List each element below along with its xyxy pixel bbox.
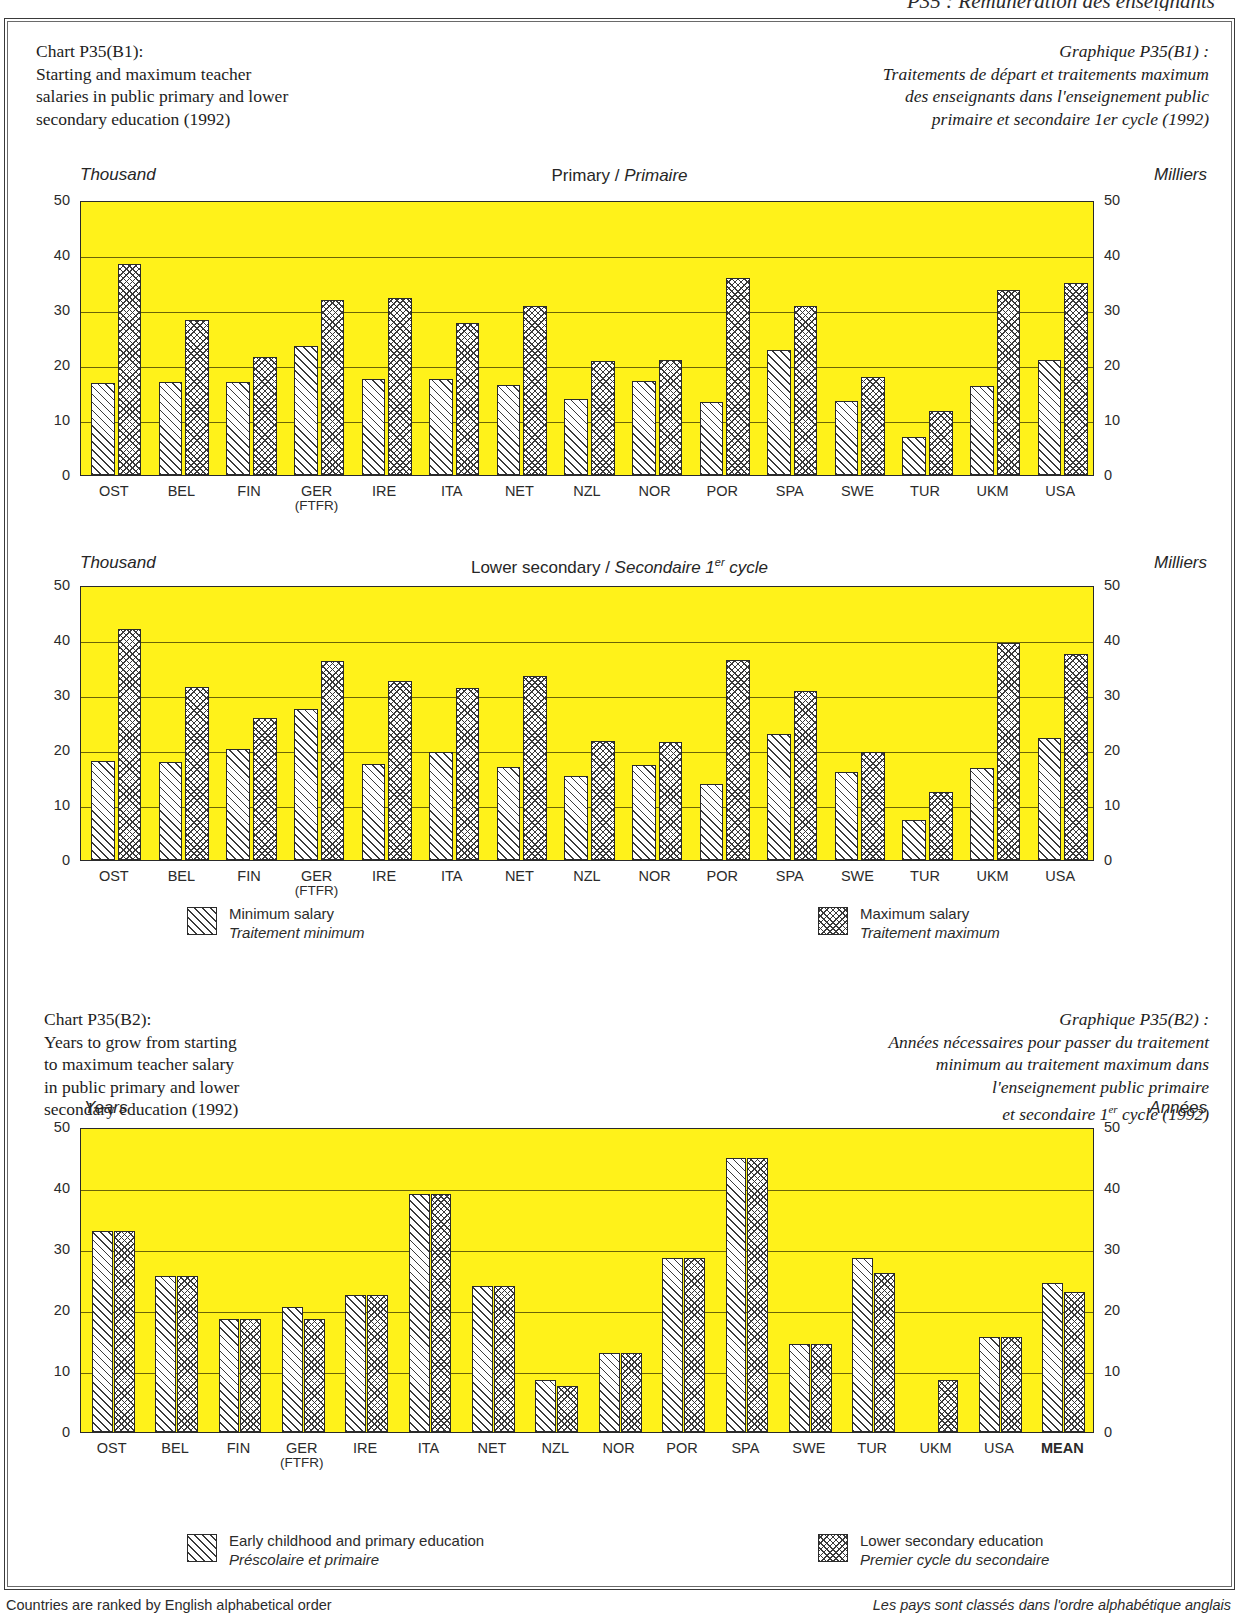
bar-primary-por-series2: [726, 278, 750, 475]
bar-years_to_max-swe-series2: [811, 1344, 832, 1432]
bar-years_to_max-ukm-series2: [938, 1380, 959, 1432]
chart-b1-title-fr-line3: des enseignants dans l'enseignement publ…: [883, 85, 1209, 108]
x-axis-label-swe: SWE: [824, 483, 892, 499]
x-axis-label-ukm: UKM: [959, 483, 1027, 499]
bar-lower_secondary-fin-series1: [226, 749, 250, 860]
bar-years_to_max-fin-series2: [240, 1319, 261, 1432]
x-axis-label-ger: GER(FTFR): [270, 1440, 333, 1470]
chart-b1-title-fr-line2: Traitements de départ et traitements max…: [883, 63, 1209, 86]
bar-primary-fin-series1: [226, 382, 250, 475]
y-axis-tick-label: 0: [1104, 852, 1144, 868]
x-axis-label-usa: USA: [967, 1440, 1030, 1456]
bar-primary-ire-series2: [388, 298, 412, 475]
chart-primary-heading-en: Primary: [551, 166, 610, 185]
x-axis-label-nor: NOR: [621, 868, 689, 884]
footer-note-fr: Les pays sont classés dans l'ordre alpha…: [873, 1597, 1231, 1613]
chart-primary-heading: Primary / Primaire: [0, 166, 1239, 186]
bar-primary-usa-series1: [1038, 360, 1062, 476]
bar-lower_secondary-fin-series2: [253, 718, 277, 860]
legend-max-salary-text: Maximum salary Traitement maximum: [860, 904, 1000, 942]
bar-primary-ost-series2: [118, 264, 142, 475]
bar-primary-nor-series1: [632, 381, 656, 475]
bar-lower_secondary-ger-series1: [294, 709, 318, 860]
bar-lower_secondary-nor-series1: [632, 765, 656, 860]
chart-lower-secondary: Thousand Milliers Lower secondary / Seco…: [0, 553, 1239, 903]
bar-primary-tur-series1: [902, 437, 926, 475]
legend-lower-secondary-education-en: Lower secondary education: [860, 1532, 1043, 1549]
bar-years_to_max-tur-series1: [852, 1258, 873, 1432]
legend-hatch-swatch-icon: [187, 907, 217, 935]
legend-lower-secondary-education-fr: Premier cycle du secondaire: [860, 1550, 1049, 1569]
bar-lower_secondary-ita-series2: [456, 688, 480, 860]
bar-years_to_max-por-series2: [684, 1258, 705, 1432]
chart-b2-title-fr-line2: Années nécessaires pour passer du traite…: [888, 1031, 1209, 1054]
x-axis-label-nzl: NZL: [553, 483, 621, 499]
x-axis-label-swe: SWE: [777, 1440, 840, 1456]
x-axis-label-spa: SPA: [714, 1440, 777, 1456]
y-axis-tick-label: 50: [30, 577, 70, 593]
x-axis-label-por: POR: [688, 868, 756, 884]
y-axis-tick-label: 50: [1104, 192, 1144, 208]
bar-lower_secondary-por-series2: [726, 660, 750, 860]
x-axis-label-ost: OST: [80, 1440, 143, 1456]
x-axis-label-net: NET: [486, 868, 554, 884]
y-axis-tick-label: 50: [1104, 577, 1144, 593]
bar-years_to_max-mean-series1: [1042, 1283, 1063, 1432]
bar-years_to_max-ire-series1: [345, 1295, 366, 1432]
legend-primary-education-en: Early childhood and primary education: [229, 1532, 484, 1549]
legend-max-salary-en: Maximum salary: [860, 905, 969, 922]
bar-years_to_max-nzl-series1: [535, 1380, 556, 1432]
x-axis-label-swe: SWE: [824, 868, 892, 884]
bar-lower_secondary-ukm-series1: [970, 768, 994, 860]
x-axis-label-ita: ITA: [397, 1440, 460, 1456]
bar-primary-ita-series1: [429, 379, 453, 475]
y-axis-tick-label: 40: [1104, 247, 1144, 263]
y-axis-tick-label: 0: [30, 852, 70, 868]
x-axis-label-nzl: NZL: [524, 1440, 587, 1456]
y-axis-tick-label: 0: [30, 1424, 70, 1440]
y-axis-tick-label: 30: [30, 1241, 70, 1257]
bar-lower_secondary-ire-series1: [362, 764, 386, 860]
y-axis-tick-label: 20: [30, 357, 70, 373]
x-axis-label-bel: BEL: [148, 483, 216, 499]
bar-primary-ukm-series1: [970, 386, 994, 475]
x-axis-label-ita: ITA: [418, 868, 486, 884]
bar-years_to_max-bel-series2: [177, 1276, 198, 1432]
bar-years_to_max-ita-series1: [409, 1194, 430, 1432]
bar-lower_secondary-net-series1: [497, 767, 521, 861]
y-axis-tick-label: 30: [1104, 687, 1144, 703]
bar-years_to_max-net-series1: [472, 1286, 493, 1432]
x-axis-label-ost: OST: [80, 483, 148, 499]
x-axis-label-ost: OST: [80, 868, 148, 884]
chart-b1-title-fr: Graphique P35(B1) : Traitements de dépar…: [883, 40, 1209, 130]
bar-primary-ukm-series2: [997, 290, 1021, 475]
x-axis-label-spa: SPA: [756, 868, 824, 884]
bar-years_to_max-mean-series2: [1064, 1292, 1085, 1432]
bar-years_to_max-tur-series2: [874, 1273, 895, 1432]
y-axis-tick-label: 20: [30, 1302, 70, 1318]
x-axis-label-bel: BEL: [143, 1440, 206, 1456]
bar-primary-nor-series2: [659, 360, 683, 475]
chart-b1-title-en-line1: Chart P35(B1):: [36, 40, 288, 63]
chart-b2-legend: Early childhood and primary education Pr…: [0, 1532, 1239, 1582]
chart-b1-title-en-line2: Starting and maximum teacher: [36, 63, 288, 86]
y-axis-tick-label: 40: [1104, 632, 1144, 648]
y-axis-tick-label: 10: [30, 412, 70, 428]
y-axis-tick-label: 20: [1104, 357, 1144, 373]
y-axis-tick-label: 0: [1104, 1424, 1144, 1440]
y-axis-tick-label: 10: [1104, 1363, 1144, 1379]
legend-lower-secondary-education-text: Lower secondary education Premier cycle …: [860, 1531, 1049, 1569]
legend-primary-education-fr: Préscolaire et primaire: [229, 1550, 484, 1569]
y-axis-tick-label: 30: [1104, 302, 1144, 318]
bar-years_to_max-fin-series1: [219, 1319, 240, 1432]
bar-primary-nzl-series2: [591, 361, 615, 475]
chart-primary-bars: [81, 202, 1093, 475]
y-axis-tick-label: 40: [1104, 1180, 1144, 1196]
bar-years_to_max-por-series1: [662, 1258, 683, 1432]
bar-lower_secondary-swe-series2: [861, 752, 885, 860]
bar-years_to_max-swe-series1: [789, 1344, 810, 1432]
x-axis-label-tur: TUR: [891, 868, 959, 884]
bar-primary-spa-series1: [767, 350, 791, 475]
chart-lower-heading-sep: /: [605, 558, 614, 577]
y-axis-tick-label: 0: [1104, 467, 1144, 483]
